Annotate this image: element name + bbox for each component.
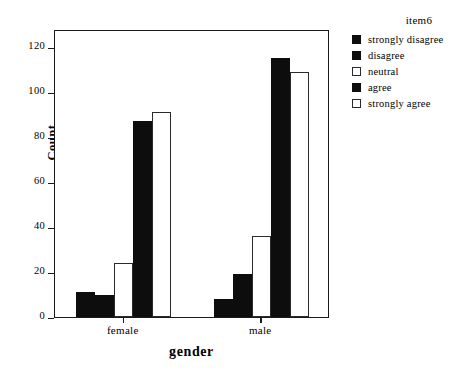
y-tick-label: 20 bbox=[0, 265, 45, 276]
legend-swatch-icon bbox=[352, 83, 361, 92]
y-tick-mark bbox=[48, 228, 54, 229]
y-tick-label: 120 bbox=[0, 40, 45, 51]
legend-item: agree bbox=[352, 80, 470, 95]
y-tick-label: 0 bbox=[0, 310, 45, 321]
bar bbox=[252, 236, 271, 317]
legend-item: strongly disagree bbox=[352, 32, 470, 47]
y-tick-mark bbox=[48, 48, 54, 49]
y-tick-mark bbox=[48, 93, 54, 94]
plot-area bbox=[54, 30, 329, 318]
y-tick-mark bbox=[48, 138, 54, 139]
bar bbox=[114, 263, 133, 317]
legend-item: neutral bbox=[352, 64, 470, 79]
bar bbox=[214, 299, 233, 317]
legend-swatch-icon bbox=[352, 35, 361, 44]
y-tick-label: 60 bbox=[0, 175, 45, 186]
legend-item-label: disagree bbox=[368, 50, 405, 61]
y-tick-label: 40 bbox=[0, 220, 45, 231]
x-axis-label: gender bbox=[54, 344, 329, 360]
y-tick-label: 100 bbox=[0, 85, 45, 96]
legend-title: item6 bbox=[352, 14, 470, 26]
x-tick-mark bbox=[260, 318, 261, 323]
x-tick-mark bbox=[123, 318, 124, 323]
x-tick-label: female bbox=[68, 324, 178, 336]
legend-item: disagree bbox=[352, 48, 470, 63]
bar bbox=[290, 72, 309, 317]
bar bbox=[233, 274, 252, 317]
bar bbox=[271, 58, 290, 317]
legend-item-label: agree bbox=[368, 82, 392, 93]
legend-items: strongly disagreedisagreeneutralagreestr… bbox=[352, 32, 470, 111]
legend-swatch-icon bbox=[352, 51, 361, 60]
bar bbox=[76, 292, 95, 317]
x-tick-label: male bbox=[205, 324, 315, 336]
y-tick-mark bbox=[48, 273, 54, 274]
legend-swatch-icon bbox=[352, 99, 361, 108]
y-tick-label: 80 bbox=[0, 130, 45, 141]
y-tick-mark bbox=[48, 318, 54, 319]
legend-item-label: strongly disagree bbox=[368, 34, 443, 45]
legend-item-label: neutral bbox=[368, 66, 399, 77]
bar bbox=[152, 112, 171, 317]
legend-item: strongly agree bbox=[352, 96, 470, 111]
legend-swatch-icon bbox=[352, 67, 361, 76]
legend-item-label: strongly agree bbox=[368, 98, 431, 109]
bar bbox=[133, 121, 152, 317]
y-tick-mark bbox=[48, 183, 54, 184]
bar bbox=[95, 295, 114, 318]
legend: item6 strongly disagreedisagreeneutralag… bbox=[352, 14, 470, 112]
bar-chart: Count 020406080100120 femalemale gender … bbox=[0, 0, 471, 374]
bars-layer bbox=[55, 31, 328, 317]
